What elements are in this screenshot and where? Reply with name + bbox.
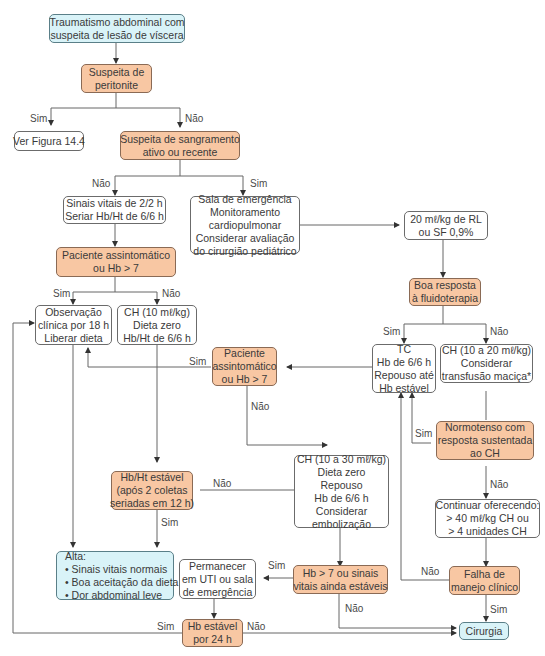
node-text: Normotenso com (445, 421, 525, 434)
node-text: Falha de (464, 568, 505, 581)
node-text: de emergência (183, 586, 252, 599)
ch10-30-node: CH (10 a 30 mℓ/kg) Dieta zero Repouso Hb… (294, 455, 389, 528)
ch10-20-node: CH (10 a 20 mℓ/kg) Considerar transfusão… (440, 344, 533, 383)
node-text: CH (10 mℓ/kg) (124, 306, 190, 319)
node-text: Hb estável (379, 382, 429, 395)
node-text: Repouso (320, 479, 362, 492)
node-text: Liberar dieta (44, 332, 102, 345)
ch10-node: CH (10 mℓ/kg) Dieta zero Hb/Ht de 6/6 h (117, 305, 197, 345)
edge-label: Não (185, 113, 203, 124)
decision-hbht-estavel: Hb/Ht estável (após 2 coletas seriadas e… (111, 471, 193, 510)
node-text: resposta sustentada (438, 434, 533, 447)
node-text: Dieta zero (318, 466, 366, 479)
node-text: (após 2 coletas (116, 484, 187, 497)
node-text: CH (10 a 20 mℓ/kg) (442, 344, 531, 357)
alta-node: Alta: • Sinais vitais normais • Boa acei… (56, 551, 174, 600)
edge-label: Sim (268, 560, 285, 571)
node-text: > 4 unidades CH (448, 525, 527, 538)
node-text: assintomático (212, 360, 276, 373)
node-text: • Boa aceitação da dieta (65, 576, 178, 589)
node-text: suspeita de lesão de víscera (50, 29, 183, 42)
node-text: Paciente assintomático (62, 249, 170, 262)
decision-sangramento: Suspeita de sangramento ativo ou recente (120, 131, 240, 160)
node-text: cardiopulmonar (209, 219, 281, 232)
node-text: ou Hb > 7 (222, 373, 268, 386)
node-text: Hb > 7 ou sinais (303, 567, 379, 580)
sala-emergencia-node: Sala de emergência Monitoramento cardiop… (190, 196, 300, 254)
edge-label: Não (213, 478, 231, 489)
edge-label: Não (251, 401, 269, 412)
node-text: CH (10 a 30 mℓ/kg) (297, 453, 386, 466)
decision-assintomatico-2: Paciente assintomático ou Hb > 7 (212, 347, 277, 386)
node-text: Boa resposta (414, 279, 476, 292)
node-text: 20 mℓ/kg de RL (410, 213, 482, 226)
decision-boa-resposta: Boa resposta à fluidoterapia (409, 278, 481, 306)
tc-node: TC Hb de 6/6 h Repouso até Hb estável (372, 344, 436, 393)
edge-label: Não (421, 566, 439, 577)
node-text: Repouso até (374, 369, 434, 382)
node-text: Hb de 6/6 h (314, 492, 368, 505)
decision-hb-estavel-24h: Hb estável por 24 h (182, 619, 243, 647)
decision-assintomatico-1: Paciente assintomático ou Hb > 7 (56, 247, 176, 277)
edge-label: Não (490, 326, 508, 337)
rl-sf-node: 20 mℓ/kg de RL ou SF 0,9% (404, 211, 488, 240)
node-text: Monitoramento (210, 206, 280, 219)
node-text: ativo ou recente (143, 146, 218, 159)
edge-label: Sim (161, 517, 178, 528)
node-text: Hb/Ht de 6/6 h (123, 332, 191, 345)
edge-label: Não (490, 479, 508, 490)
node-text: Considerar avaliação (196, 232, 295, 245)
node-text: Cirurgia (466, 625, 503, 638)
node-text: Considerar (316, 505, 367, 518)
decision-hb7-sinais: Hb > 7 ou sinais vitais ainda estáveis (293, 565, 388, 594)
ver-figura-node: Ver Figura 14.4 (14, 131, 84, 151)
node-text: Continuar oferecendo: (436, 499, 540, 512)
node-text: Ver Figura 14.4 (13, 135, 85, 148)
node-text: Hb estável (188, 620, 238, 633)
node-text: Permanecer (189, 560, 246, 573)
node-text: vitais ainda estáveis (294, 580, 388, 593)
decision-peritonite: Suspeita de peritonite (81, 64, 152, 93)
node-text: Suspeita de sangramento (120, 133, 240, 146)
node-text: Hb/Ht estável (120, 471, 183, 484)
node-text: Traumatismo abdominal com (50, 16, 185, 29)
edge-label: Sim (383, 326, 400, 337)
node-text: Sala de emergência (198, 193, 291, 206)
node-text: Suspeita de (89, 66, 144, 79)
edge-label: Não (345, 603, 363, 614)
cirurgia-node: Cirurgia (459, 622, 509, 640)
node-text: • Dor abdominal leve (65, 589, 162, 602)
start-node: Traumatismo abdominal com suspeita de le… (49, 14, 185, 43)
node-text: manejo clínico (451, 581, 518, 594)
node-text: Observação (45, 306, 102, 319)
decision-falha: Falha de manejo clínico (449, 566, 520, 595)
node-text: Considerar (461, 357, 512, 370)
node-text: ao CH (470, 447, 500, 460)
edge-label: Sim (30, 113, 47, 124)
node-text: • Sinais vitais normais (65, 563, 167, 576)
node-text: embolização (312, 518, 371, 531)
decision-normotenso: Normotenso com resposta sustentada ao CH (436, 421, 534, 460)
edge-label: Sim (157, 621, 174, 632)
node-text: seriadas em 12 h) (110, 497, 194, 510)
edge-label: Sim (490, 604, 507, 615)
node-text: Alta: (65, 550, 86, 563)
node-text: peritonite (95, 79, 138, 92)
node-text: ou Hb > 7 (93, 262, 139, 275)
node-text: transfusão maciça* (442, 370, 531, 383)
continuar-node: Continuar oferecendo: > 40 mℓ/kg CH ou >… (435, 499, 540, 538)
node-text: > 40 mℓ/kg CH ou (446, 512, 528, 525)
node-text: TC (397, 343, 411, 356)
node-text: por 24 h (193, 633, 232, 646)
edge-label: Não (162, 288, 180, 299)
edge-label: Sim (250, 178, 267, 189)
edge-label: Sim (415, 428, 432, 439)
observacao-node: Observação clínica por 18 h Liberar diet… (35, 305, 112, 345)
edge-label: Sim (189, 356, 206, 367)
node-text: Dieta zero (133, 319, 181, 332)
node-text: Hb de 6/6 h (377, 356, 431, 369)
permanecer-node: Permanecer em UTI ou sala de emergência (179, 559, 256, 599)
edge-label: Não (92, 178, 110, 189)
sinais-vitais-node: Sinais vitais de 2/2 h Seriar Hb/Ht de 6… (63, 196, 166, 224)
node-text: em UTI ou sala (182, 573, 253, 586)
